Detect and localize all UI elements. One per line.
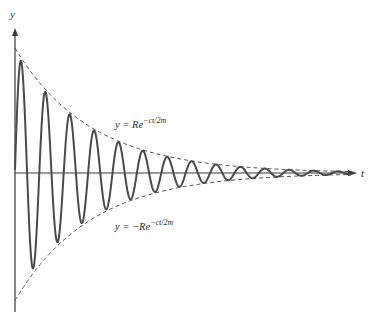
lower-equation-exponent: −ct/2m bbox=[150, 218, 173, 227]
y-axis-label: y bbox=[10, 8, 15, 20]
damped-oscillation-plot bbox=[0, 0, 375, 326]
lower-envelope-equation: y = −Re−ct/2m bbox=[115, 218, 173, 232]
y-axis-arrow-icon bbox=[12, 28, 18, 36]
upper-envelope-equation: y = Re−ct/2m bbox=[115, 116, 166, 130]
lower-envelope-curve bbox=[15, 175, 351, 301]
upper-equation-main: y = Re bbox=[115, 119, 143, 130]
oscillation-curve bbox=[15, 61, 351, 269]
lower-equation-main: y = −Re bbox=[115, 221, 150, 232]
t-axis-label: t bbox=[361, 167, 364, 179]
upper-equation-exponent: −ct/2m bbox=[143, 116, 166, 125]
